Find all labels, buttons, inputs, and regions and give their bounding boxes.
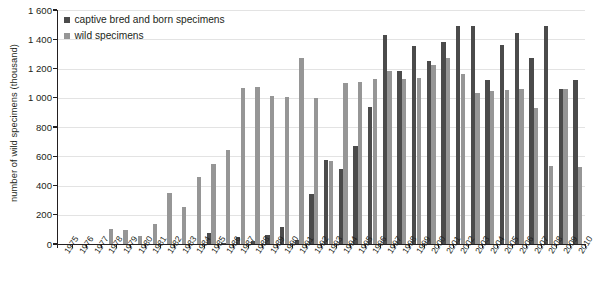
bar-wild	[534, 108, 538, 244]
y-tick-label: 1 400	[8, 35, 52, 45]
x-tick-mark	[116, 244, 117, 248]
x-tick-mark	[321, 244, 322, 248]
x-tick-mark	[130, 244, 131, 248]
bar-group	[251, 10, 266, 244]
x-tick-mark	[541, 244, 542, 248]
bar-wild	[226, 150, 230, 244]
bar-group	[515, 10, 530, 244]
bar-group	[544, 10, 559, 244]
bar-group	[441, 10, 456, 244]
y-tick-mark	[53, 39, 57, 40]
bar-wild	[417, 78, 421, 244]
x-tick-mark	[86, 244, 87, 248]
y-tick-mark	[53, 126, 57, 127]
x-tick-mark	[424, 244, 425, 248]
x-tick-mark	[468, 244, 469, 248]
y-tick-mark	[53, 68, 57, 69]
y-tick-label: 1 000	[8, 93, 52, 103]
bar-group	[471, 10, 486, 244]
bar-wild	[197, 177, 201, 244]
bar-wild	[563, 89, 567, 244]
x-tick-mark	[292, 244, 293, 248]
y-tick-label: 1 200	[8, 64, 52, 74]
y-tick-mark	[53, 214, 57, 215]
bar-wild	[373, 79, 377, 244]
bar-group	[412, 10, 427, 244]
x-tick-mark	[204, 244, 205, 248]
bar-group	[309, 10, 324, 244]
bar-group	[339, 10, 354, 244]
bar-group	[456, 10, 471, 244]
x-tick-mark	[218, 244, 219, 248]
x-tick-mark	[248, 244, 249, 248]
bar-group	[295, 10, 310, 244]
bar-group	[485, 10, 500, 244]
y-tick-label: 200	[8, 210, 52, 220]
y-tick-label: 400	[8, 181, 52, 191]
x-tick-mark	[409, 244, 410, 248]
y-tick-label: 1 600	[8, 6, 52, 16]
legend-item-captive: captive bred and born specimens	[64, 14, 225, 26]
x-tick-mark	[189, 244, 190, 248]
bar-wild	[402, 79, 406, 244]
bar-wild	[431, 65, 435, 244]
y-tick-mark	[53, 185, 57, 186]
bar-wild	[314, 98, 318, 244]
x-tick-mark	[160, 244, 161, 248]
y-tick-label: 800	[8, 123, 52, 133]
y-tick-mark	[53, 9, 57, 10]
bar-wild	[343, 83, 347, 244]
y-tick-mark	[53, 156, 57, 157]
bar-wild	[358, 82, 362, 244]
x-tick-mark	[512, 244, 513, 248]
x-tick-mark	[438, 244, 439, 248]
x-tick-mark	[380, 244, 381, 248]
bar-wild	[475, 93, 479, 244]
x-tick-mark	[262, 244, 263, 248]
bar-group	[559, 10, 574, 244]
bar-group	[280, 10, 295, 244]
bar-wild	[299, 58, 303, 244]
bar-group	[529, 10, 544, 244]
x-tick-mark	[350, 244, 351, 248]
x-tick-mark	[497, 244, 498, 248]
bar-wild	[387, 71, 391, 244]
bar-group	[427, 10, 442, 244]
bar-group	[236, 10, 251, 244]
x-tick-mark	[233, 244, 234, 248]
bar-wild	[578, 167, 582, 245]
bar-group	[368, 10, 383, 244]
legend-swatch-wild-icon	[64, 33, 70, 39]
x-tick-mark	[101, 244, 102, 248]
bar-wild	[549, 166, 553, 244]
x-tick-mark	[482, 244, 483, 248]
bar-wild	[285, 97, 289, 244]
bar-group	[353, 10, 368, 244]
bar-group	[500, 10, 515, 244]
x-tick-mark	[394, 244, 395, 248]
x-tick-mark	[453, 244, 454, 248]
bar-wild	[490, 91, 494, 244]
legend-label-wild: wild specimens	[75, 30, 144, 42]
bar-wild	[211, 164, 215, 244]
bar-wild	[270, 96, 274, 244]
legend-item-wild: wild specimens	[64, 30, 225, 42]
bar-group	[265, 10, 280, 244]
x-tick-mark	[570, 244, 571, 248]
bar-wild	[461, 74, 465, 244]
bar-group	[573, 10, 588, 244]
bar-wild	[505, 90, 509, 244]
legend-label-captive: captive bred and born specimens	[75, 14, 225, 26]
bar-wild	[167, 193, 171, 244]
bar-wild	[519, 89, 523, 244]
bar-group	[383, 10, 398, 244]
bar-wild	[255, 87, 259, 244]
x-tick-mark	[336, 244, 337, 248]
y-tick-mark	[53, 97, 57, 98]
y-tick-label: 600	[8, 152, 52, 162]
bar-group	[397, 10, 412, 244]
legend-swatch-captive-icon	[64, 17, 70, 23]
bar-group	[324, 10, 339, 244]
bar-wild	[241, 88, 245, 244]
